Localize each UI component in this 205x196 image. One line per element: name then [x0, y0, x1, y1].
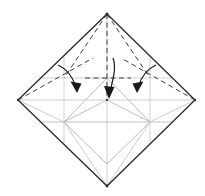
left-vertex-dot: [17, 99, 19, 101]
bottom-vertex-dot: [106, 185, 109, 188]
diagram-background: [0, 0, 205, 196]
origami-diagram: [0, 0, 205, 196]
origami-figure-svg: [0, 0, 205, 196]
right-vertex-dot: [194, 99, 196, 101]
center-point-dot: [106, 99, 108, 101]
top-vertex-dot: [105, 12, 108, 15]
